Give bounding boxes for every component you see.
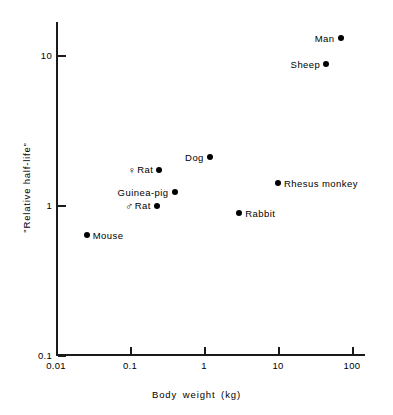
data-point-rat-female	[156, 167, 162, 173]
data-label-sheep: Sheep	[0, 59, 320, 70]
data-point-guinea-pig	[172, 189, 178, 195]
y-tick-0.1	[58, 355, 66, 357]
data-point-dog	[207, 154, 213, 160]
y-tick-label-0.1: 0.1	[8, 350, 52, 361]
data-point-rabbit	[236, 210, 242, 216]
y-axis-title: "Relative half-life"	[21, 113, 32, 263]
scatter-plot-figure: 0.1110 0.010.1110100 Mouse♂Rat♀RatGuinea…	[0, 0, 393, 415]
x-tick-label-1: 1	[201, 360, 207, 371]
species-name: Rhesus monkey	[284, 178, 358, 189]
x-tick-label-100: 100	[344, 360, 361, 371]
species-name: Rat	[135, 200, 151, 211]
species-name: Guinea-pig	[118, 187, 169, 198]
data-label-rhesus-monkey: Rhesus monkey	[284, 178, 358, 189]
data-point-sheep	[323, 61, 329, 67]
x-tick-1	[204, 347, 206, 355]
x-tick-label-0.01: 0.01	[46, 360, 66, 371]
data-point-man	[338, 35, 344, 41]
species-name: Sheep	[291, 59, 321, 70]
species-name: Rat	[137, 164, 153, 175]
x-tick-0.1	[130, 347, 132, 355]
x-axis-line	[56, 354, 365, 356]
data-label-mouse: Mouse	[93, 230, 124, 241]
male-symbol-icon: ♂	[125, 200, 135, 212]
species-name: Rabbit	[245, 208, 275, 219]
x-tick-label-0.1: 0.1	[123, 360, 137, 371]
data-point-rat-male	[154, 203, 160, 209]
x-tick-100	[352, 347, 354, 355]
x-axis-title: Body weight (kg)	[0, 389, 393, 400]
data-point-mouse	[84, 232, 90, 238]
species-name: Mouse	[93, 230, 124, 241]
x-tick-10	[278, 347, 280, 355]
species-name: Man	[315, 32, 335, 43]
species-name: Dog	[185, 151, 204, 162]
y-tick-10	[58, 55, 66, 57]
female-symbol-icon: ♀	[128, 164, 138, 176]
x-tick-label-10: 10	[272, 360, 283, 371]
data-point-rhesus-monkey	[275, 180, 281, 186]
data-label-rabbit: Rabbit	[245, 208, 275, 219]
data-label-man: Man	[0, 32, 335, 43]
